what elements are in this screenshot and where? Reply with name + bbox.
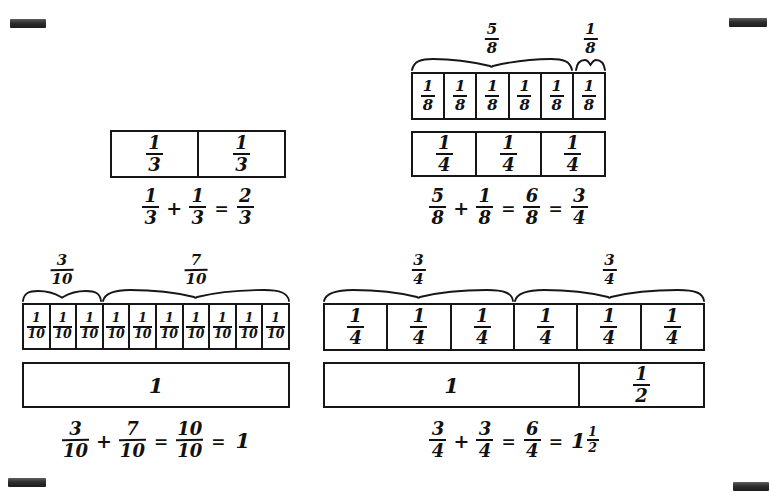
fraction-rule [142, 206, 159, 208]
fraction-rule [410, 326, 427, 328]
fraction-one-eighth: 1 8 [583, 22, 597, 56]
equation-term-fraction: 3 4 [476, 420, 493, 460]
bar-cell: 1 4 [325, 305, 388, 349]
corner-mark-top-left [10, 19, 46, 28]
equation-term-fraction: 1 3 [189, 187, 206, 227]
equation-term-fraction: 1 3 [142, 187, 159, 227]
bar-cell: 1 4 [413, 133, 477, 175]
whole-and-half-row: 1 1 2 [323, 362, 705, 408]
fraction-one-fourth: 1 4 [664, 307, 681, 347]
plus-operator: + [89, 432, 119, 451]
fraction-one-fourth: 1 4 [410, 307, 427, 347]
bar-cell: 1 4 [578, 305, 641, 349]
equals-operator: = [203, 433, 233, 450]
worksheet-page: 1 3 1 3 1 3 + 1 3 = [0, 0, 771, 501]
fraction-rule [602, 269, 616, 271]
fraction-rule [453, 95, 467, 97]
equation-term-fraction: 7 10 [119, 420, 146, 460]
bar-cell: 1 3 [199, 132, 284, 176]
fraction-rule [582, 95, 596, 97]
fraction-rule [119, 439, 146, 441]
fraction-three-tenths: 3 10 [51, 253, 74, 287]
mixed-whole-part: 1 [571, 430, 586, 451]
fraction-rule [266, 326, 285, 328]
fraction-rule [160, 326, 179, 328]
fraction-one-tenth: 1 10 [27, 312, 46, 341]
corner-mark-top-right [729, 18, 767, 27]
fraction-one-eighth: 1 8 [485, 79, 499, 113]
fraction-one-eighth: 1 8 [517, 79, 531, 113]
bar-cell: 1 8 [510, 74, 542, 118]
fraction-rule [476, 206, 493, 208]
fraction-rule [500, 153, 517, 155]
fraction-five-eighths: 5 8 [485, 22, 499, 56]
fourths-row: 1 4 1 4 1 4 [411, 131, 606, 177]
eighths-equation: 5 8 + 1 8 = 6 8 = 3 4 [411, 188, 606, 226]
bar-cell: 1 8 [542, 74, 574, 118]
fourths-six-row: 1 4 1 4 1 4 1 4 [323, 303, 705, 351]
bar-cell: 1 10 [77, 305, 104, 348]
equals-operator: = [541, 200, 571, 217]
brace-label: 3 10 [51, 250, 74, 287]
brace-seven-tenths: 7 10 [102, 288, 290, 302]
bar-cell: 1 4 [388, 305, 451, 349]
bar-cell: 1 10 [237, 305, 264, 348]
bar-cell: 1 3 [112, 132, 199, 176]
equation-result-fraction: 10 10 [176, 420, 203, 460]
fraction-rule [347, 326, 364, 328]
mixed-fraction-part: 1 2 [587, 426, 599, 455]
fraction-rule [600, 326, 617, 328]
brace-label: 3 4 [602, 250, 616, 287]
bar-cell: 1 8 [477, 74, 509, 118]
equation-term-fraction: 5 8 [429, 187, 446, 227]
fraction-rule [213, 326, 232, 328]
bar-cell: 1 10 [51, 305, 78, 348]
fraction-rule [133, 326, 152, 328]
fraction-one-fourth: 1 4 [600, 307, 617, 347]
bar-cell: 1 [24, 364, 288, 406]
fraction-rule [146, 153, 163, 155]
bar-cell: 1 8 [574, 74, 604, 118]
thirds-row: 1 3 1 3 [110, 130, 286, 178]
fraction-one-fourth: 1 4 [347, 307, 364, 347]
bar-cell: 1 10 [24, 305, 51, 348]
fraction-rule [474, 326, 491, 328]
fraction-rule [233, 153, 250, 155]
fraction-rule [564, 153, 581, 155]
fraction-rule [664, 326, 681, 328]
brace-three-tenths: 3 10 [22, 288, 102, 302]
fraction-rule [633, 384, 650, 386]
plus-operator: + [446, 432, 476, 451]
bar-cell: 1 8 [413, 74, 445, 118]
fraction-one-eighth: 1 8 [453, 79, 467, 113]
bar-cell: 1 10 [210, 305, 237, 348]
brace-five-eighths: 5 8 [411, 57, 573, 71]
bar-cell: 1 10 [130, 305, 157, 348]
bar-cell: 1 8 [445, 74, 477, 118]
tenths-whole-row: 1 [22, 362, 290, 408]
brace-label: 1 8 [583, 19, 597, 56]
brace-label: 7 10 [185, 250, 208, 287]
whole-one-label: 1 [444, 375, 459, 396]
fraction-one-eighth: 1 8 [582, 79, 596, 113]
fraction-rule [476, 439, 493, 441]
fraction-one-tenth: 1 10 [266, 312, 285, 341]
brace-one-eighth: 1 8 [575, 57, 606, 71]
fraction-one-tenth: 1 10 [186, 312, 205, 341]
bar-cell: 1 4 [477, 133, 541, 175]
fraction-rule [189, 206, 206, 208]
fraction-rule [485, 95, 499, 97]
fraction-rule [62, 439, 89, 441]
equals-operator: = [493, 200, 523, 217]
equals-operator: = [494, 433, 524, 450]
corner-mark-bottom-right [733, 482, 769, 491]
fraction-one-third: 1 3 [233, 134, 250, 174]
fraction-one-fourth: 1 4 [474, 307, 491, 347]
bar-cell-half: 1 2 [580, 364, 703, 406]
fraction-rule [53, 326, 72, 328]
fraction-rule [436, 153, 453, 155]
equation-result-fraction: 6 4 [524, 420, 541, 460]
fraction-rule [106, 326, 125, 328]
fraction-three-fourths: 3 4 [602, 253, 616, 287]
bar-cell: 1 10 [157, 305, 184, 348]
